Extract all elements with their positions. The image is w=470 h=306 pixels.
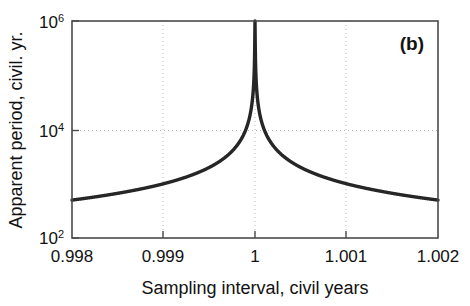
x-tick-label-0998: 0.998 bbox=[51, 247, 94, 266]
x-tick-label-1002: 1.002 bbox=[417, 247, 460, 266]
x-tick-label-1: 1 bbox=[250, 247, 259, 266]
y-axis-title: Apparent period, civil. yr. bbox=[6, 31, 26, 228]
y-tick-label-1e4: 104 bbox=[39, 121, 64, 141]
y-tick-label-1e2: 102 bbox=[39, 228, 64, 248]
x-tick-label-0999: 0.999 bbox=[142, 247, 185, 266]
y-tick-label-1e6: 106 bbox=[39, 12, 64, 32]
chart-canvas: 106 104 102 0.998 0.999 1 1.001 1.002 Sa… bbox=[0, 0, 470, 306]
panel-label: (b) bbox=[400, 33, 424, 54]
figure-container: 106 104 102 0.998 0.999 1 1.001 1.002 Sa… bbox=[0, 0, 470, 306]
x-axis-title: Sampling interval, civil years bbox=[141, 278, 368, 298]
x-tick-label-1001: 1.001 bbox=[325, 247, 368, 266]
y-tick-labels: 106 104 102 bbox=[39, 12, 64, 248]
x-tick-labels: 0.998 0.999 1 1.001 1.002 bbox=[51, 247, 460, 266]
